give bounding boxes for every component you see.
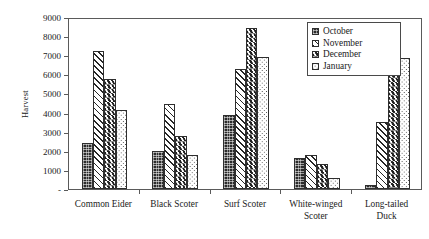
y-axis-tick-label: 5000 (43, 90, 61, 99)
legend: OctoberNovemberDecemberJanuary (307, 22, 401, 76)
legend-swatch-icon (312, 40, 319, 47)
bar (223, 115, 234, 189)
bar (152, 151, 163, 189)
bar (305, 155, 316, 189)
bar (294, 158, 305, 189)
x-axis-label: Common Eider (68, 199, 139, 211)
y-axis-tick-label: 7000 (43, 52, 61, 61)
y-axis-tick-label: 6000 (43, 71, 61, 80)
bar (104, 79, 115, 189)
bar (399, 58, 410, 189)
legend-item: January (312, 61, 396, 73)
x-axis-tick-mark (280, 190, 281, 194)
bar-chart: Harvest -1000200030004000500060007000800… (0, 0, 429, 239)
bar (93, 51, 104, 189)
legend-item-label: November (323, 39, 362, 48)
bar-group (211, 19, 282, 189)
bar (328, 178, 339, 189)
bar (317, 164, 328, 189)
legend-swatch-icon (312, 28, 319, 35)
bar (116, 110, 127, 189)
y-axis-tick-label: 8000 (43, 33, 61, 42)
bar (376, 122, 387, 189)
legend-item-label: January (323, 62, 352, 71)
legend-item: December (312, 49, 396, 61)
y-axis-tick-label: 4000 (43, 109, 61, 118)
x-axis-label: Black Scoter (139, 199, 210, 211)
x-axis-label: White-winged Scoter (280, 199, 351, 222)
bar (235, 69, 246, 189)
bar (365, 185, 376, 189)
legend-item-label: December (323, 50, 361, 59)
legend-swatch-icon (312, 51, 319, 58)
bar-group (140, 19, 211, 189)
y-axis-tick-label: - (58, 186, 61, 195)
bar-group (69, 19, 140, 189)
y-axis-tick-label: 2000 (43, 147, 61, 156)
y-axis-tick-label: 1000 (43, 166, 61, 175)
x-axis-label: Long-tailed Duck (351, 199, 422, 222)
x-axis-tick-mark (210, 190, 211, 194)
x-axis-label: Surf Scoter (210, 199, 281, 211)
x-axis-tick-mark (351, 190, 352, 194)
legend-item: November (312, 38, 396, 50)
y-axis-tick-mark (64, 190, 68, 191)
y-axis-tick-label: 9000 (43, 14, 61, 23)
legend-item: October (312, 26, 396, 38)
bar (257, 57, 268, 189)
y-axis-tick-label: 3000 (43, 128, 61, 137)
bar (187, 155, 198, 189)
x-axis-tick-mark (139, 190, 140, 194)
legend-item-label: October (323, 27, 353, 36)
legend-swatch-icon (312, 63, 319, 70)
bar (82, 143, 93, 189)
bar (164, 104, 175, 189)
bar (175, 136, 186, 190)
bar (246, 28, 257, 189)
